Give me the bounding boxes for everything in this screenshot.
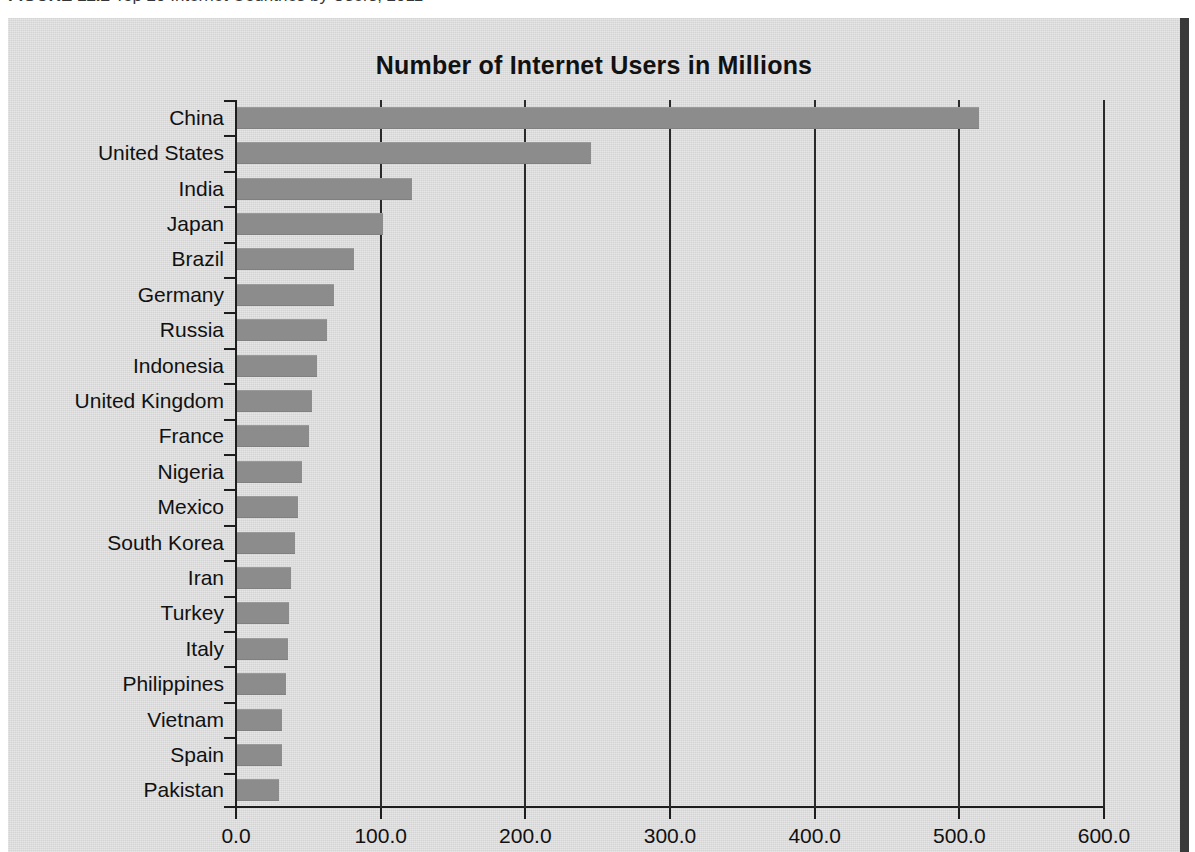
- bar: [237, 178, 412, 200]
- bar: [237, 673, 286, 695]
- y-axis-tick: [224, 560, 235, 562]
- figure-page: FIGURE 12.2 Top 20 Internet Countries by…: [0, 0, 1195, 852]
- bar: [237, 744, 282, 766]
- plot-area: 0.0100.0200.0300.0400.0500.0600.0: [235, 100, 1103, 808]
- figure-caption-strip: FIGURE 12.2 Top 20 Internet Countries by…: [0, 0, 1195, 16]
- gridline: [1103, 100, 1105, 808]
- bar: [237, 532, 295, 554]
- x-axis-tick-label: 600.0: [1078, 824, 1131, 848]
- x-axis-tick: [235, 808, 237, 819]
- y-axis-line: [235, 100, 237, 808]
- y-axis-tick: [224, 383, 235, 385]
- y-axis-tick: [224, 348, 235, 350]
- figure-caption: FIGURE 12.2 Top 20 Internet Countries by…: [8, 0, 423, 6]
- gridline: [524, 100, 526, 808]
- bar: [237, 709, 282, 731]
- gridline: [669, 100, 671, 808]
- x-axis-tick: [1103, 808, 1105, 819]
- x-axis-tick: [958, 808, 960, 819]
- x-axis-tick-label: 0.0: [221, 824, 250, 848]
- bar: [237, 142, 591, 164]
- gridline: [958, 100, 960, 808]
- y-axis-tick: [224, 737, 235, 739]
- y-axis-tick: [224, 525, 235, 527]
- y-axis-tick: [224, 454, 235, 456]
- bar: [237, 213, 383, 235]
- y-axis-tick: [224, 100, 235, 102]
- gridline: [380, 100, 382, 808]
- x-axis-tick-label: 200.0: [499, 824, 552, 848]
- bar: [237, 248, 354, 270]
- bar: [237, 638, 288, 660]
- bar: [237, 355, 317, 377]
- y-axis-tick: [224, 489, 235, 491]
- x-axis-tick: [524, 808, 526, 819]
- y-axis-tick: [224, 596, 235, 598]
- bar: [237, 496, 298, 518]
- x-axis-tick: [669, 808, 671, 819]
- y-axis-tick: [224, 631, 235, 633]
- y-axis-tick: [224, 312, 235, 314]
- y-axis-tick: [224, 806, 235, 808]
- figure-caption-text: Top 20 Internet Countries by Users, 2011: [114, 0, 423, 5]
- y-axis-tick: [224, 702, 235, 704]
- figure-caption-label: FIGURE 12.2: [8, 0, 110, 5]
- x-axis-tick-label: 500.0: [933, 824, 986, 848]
- bar: [237, 319, 327, 341]
- gridline: [814, 100, 816, 808]
- y-axis-tick: [224, 419, 235, 421]
- bar: [237, 461, 302, 483]
- bar: [237, 425, 309, 447]
- x-axis-tick-label: 400.0: [788, 824, 841, 848]
- y-axis-tick: [224, 666, 235, 668]
- y-axis-tick: [224, 206, 235, 208]
- y-axis-tick: [224, 242, 235, 244]
- y-axis-tick: [224, 135, 235, 137]
- bar: [237, 390, 312, 412]
- bar: [237, 567, 291, 589]
- x-axis-tick-label: 300.0: [644, 824, 697, 848]
- chart-title: Number of Internet Users in Millions: [8, 51, 1180, 80]
- y-axis-tick: [224, 171, 235, 173]
- x-axis-tick: [814, 808, 816, 819]
- bar: [237, 779, 279, 801]
- bar: [237, 107, 979, 129]
- x-axis-tick-label: 100.0: [354, 824, 407, 848]
- bar: [237, 284, 334, 306]
- y-axis-tick: [224, 277, 235, 279]
- y-axis-tick: [224, 773, 235, 775]
- x-axis-tick: [380, 808, 382, 819]
- bar: [237, 602, 289, 624]
- chart-panel: Number of Internet Users in Millions 0.0…: [8, 18, 1180, 852]
